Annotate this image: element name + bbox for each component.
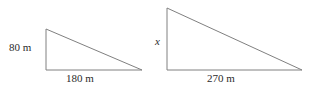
similar-triangles-figure: 80 m 180 m x 270 m [0,0,309,95]
triangles-canvas [0,0,309,95]
right-triangle-shape [167,8,302,70]
left-triangle-vertical-leg-label: 80 m [9,42,31,53]
left-triangle-base-label: 180 m [66,73,94,84]
right-triangle-vertical-leg-label: x [155,36,160,47]
left-triangle-shape [46,29,142,70]
right-triangle-base-label: 270 m [207,73,235,84]
